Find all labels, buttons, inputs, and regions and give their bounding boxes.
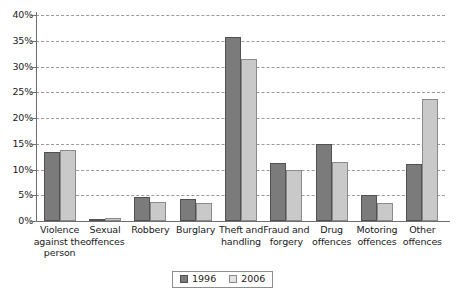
- y-axis-tick: [31, 221, 37, 222]
- x-axis-label-line: person: [31, 247, 88, 259]
- bar-group: [354, 15, 399, 221]
- legend-swatch-icon: [229, 275, 237, 283]
- legend-swatch-icon: [180, 275, 188, 283]
- bar-1996: [134, 197, 150, 221]
- y-axis-tick-label: 15%: [1, 139, 33, 149]
- y-axis-tick-label: 40%: [1, 10, 33, 20]
- x-axis-label-line: offences: [394, 236, 451, 248]
- x-axis-line: [30, 221, 450, 222]
- y-axis-tick-label: 0%: [1, 216, 33, 226]
- bars-layer: [37, 15, 445, 221]
- bar-group: [309, 15, 354, 221]
- bar-2006: [150, 202, 166, 221]
- y-axis-tick: [31, 118, 37, 119]
- y-axis-tick-label: 30%: [1, 62, 33, 72]
- y-axis-tick: [31, 15, 37, 16]
- legend-item: 1996: [180, 274, 216, 284]
- y-axis-tick-label: 10%: [1, 165, 33, 175]
- bar-1996: [180, 199, 196, 221]
- y-axis-tick: [31, 144, 37, 145]
- y-axis-tick: [31, 67, 37, 68]
- bar-2006: [286, 170, 302, 222]
- bar-2006: [377, 203, 393, 221]
- x-axis-label-line: Other: [394, 224, 451, 236]
- bar-group: [128, 15, 173, 221]
- y-axis-labels: 0%5%10%15%20%25%30%35%40%: [0, 0, 33, 299]
- bar-2006: [196, 203, 212, 221]
- y-axis-tick: [31, 195, 37, 196]
- bar-group: [400, 15, 445, 221]
- bar-2006: [241, 59, 257, 221]
- y-axis-tick: [31, 92, 37, 93]
- y-axis-tick-label: 5%: [1, 190, 33, 200]
- bar-1996: [406, 164, 422, 221]
- legend-item: 2006: [229, 274, 265, 284]
- bar-1996: [89, 219, 105, 221]
- legend-label: 2006: [241, 274, 265, 284]
- bar-group: [173, 15, 218, 221]
- bar-group: [37, 15, 82, 221]
- bar-1996: [44, 152, 60, 221]
- bar-group: [264, 15, 309, 221]
- y-axis-tick-label: 35%: [1, 36, 33, 46]
- legend-label: 1996: [192, 274, 216, 284]
- x-axis-label-line: offences: [76, 236, 133, 248]
- x-axis-label: Otheroffences: [394, 224, 451, 247]
- bar-1996: [270, 163, 286, 221]
- x-axis-category-labels: Violenceagainst thepersonSexualoffencesR…: [37, 224, 445, 274]
- bar-2006: [422, 99, 438, 221]
- y-axis-tick: [31, 170, 37, 171]
- bar-2006: [60, 150, 76, 221]
- y-axis-tick: [31, 41, 37, 42]
- bar-2006: [105, 218, 121, 221]
- bar-2006: [332, 162, 348, 221]
- bar-1996: [225, 37, 241, 221]
- bar-chart: 0%5%10%15%20%25%30%35%40% Violenceagains…: [0, 0, 460, 299]
- bar-1996: [316, 144, 332, 221]
- chart-legend: 19962006: [172, 271, 273, 288]
- bar-group: [82, 15, 127, 221]
- y-axis-tick-label: 20%: [1, 113, 33, 123]
- bar-group: [218, 15, 263, 221]
- bar-1996: [361, 195, 377, 221]
- y-axis-tick-label: 25%: [1, 87, 33, 97]
